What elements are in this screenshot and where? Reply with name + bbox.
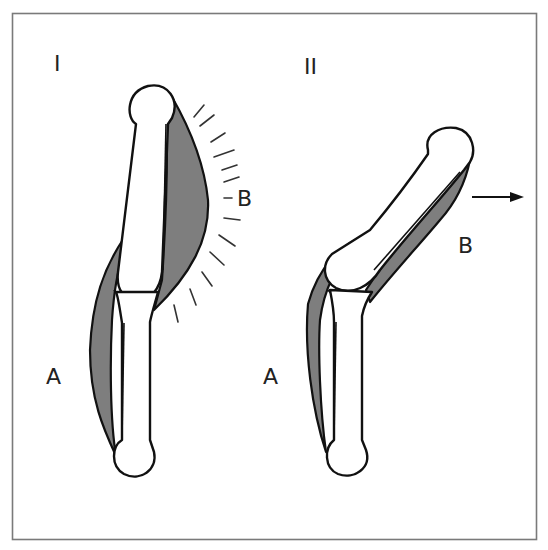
lower-bone-panel-II [327, 290, 372, 476]
muscle-label-B-panel-II: B [458, 233, 473, 258]
panel-label-I: I [54, 51, 61, 76]
muscle-antagonist-diagram: I B A [0, 0, 548, 550]
right-arrow-icon [472, 192, 524, 202]
muscle-label-A-panel-II: A [263, 364, 278, 389]
muscle-label-B-panel-I: B [237, 186, 252, 211]
figure-frame [13, 14, 537, 540]
panel-label-II: II [304, 54, 317, 79]
panel-II: II B A [263, 54, 524, 476]
panel-I: I B A [46, 51, 252, 477]
muscle-label-A-panel-I: A [46, 364, 61, 389]
lower-bone-panel-I [114, 292, 158, 477]
